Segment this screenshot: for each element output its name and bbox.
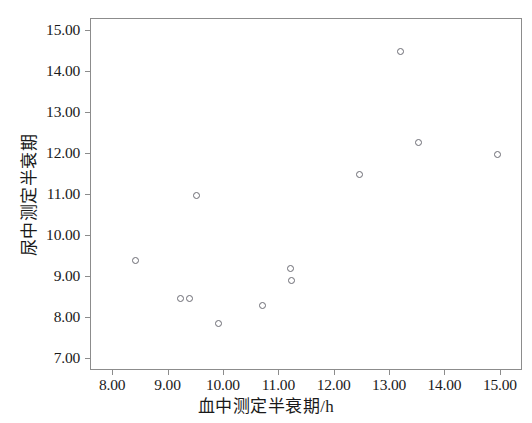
data-point [259, 302, 266, 309]
data-point [287, 265, 294, 272]
y-axis-title: 尿中测定半衰期 [20, 95, 40, 295]
data-point [288, 277, 295, 284]
y-axis-tick [85, 153, 90, 154]
scatter-plot-figure: 8.009.0010.0011.0012.0013.0014.0015.00 7… [0, 0, 532, 423]
y-axis-tick-label: 9.00 [0, 267, 80, 285]
y-axis-tick [85, 276, 90, 277]
x-axis-tick [389, 370, 390, 375]
x-axis-tick-label: 8.00 [82, 376, 142, 394]
y-axis-tick-label: 13.00 [0, 103, 80, 121]
x-axis-tick-label: 9.00 [138, 376, 198, 394]
data-point [494, 151, 501, 158]
x-axis-tick [223, 370, 224, 375]
data-point [177, 295, 184, 302]
y-axis-tick [85, 30, 90, 31]
data-point [397, 48, 404, 55]
x-axis-tick-label: 15.00 [470, 376, 530, 394]
data-point [415, 139, 422, 146]
x-axis-tick [112, 370, 113, 375]
y-axis-tick-label: 10.00 [0, 226, 80, 244]
x-axis-tick-label: 13.00 [359, 376, 419, 394]
x-axis-tick [444, 370, 445, 375]
x-axis-tick-label: 11.00 [248, 376, 308, 394]
y-axis-tick [85, 112, 90, 113]
y-axis-tick [85, 358, 90, 359]
y-axis-tick [85, 317, 90, 318]
y-axis-tick-label: 7.00 [0, 349, 80, 367]
x-axis-tick [168, 370, 169, 375]
y-axis-tick-label: 12.00 [0, 144, 80, 162]
data-point [186, 295, 193, 302]
x-axis-tick-label: 10.00 [193, 376, 253, 394]
data-points-layer [91, 19, 521, 369]
x-axis-tick-label: 12.00 [304, 376, 364, 394]
y-axis-tick-label: 8.00 [0, 308, 80, 326]
plot-area [90, 18, 522, 370]
y-axis-tick [85, 235, 90, 236]
y-axis-tick-label: 11.00 [0, 185, 80, 203]
y-axis-tick [85, 71, 90, 72]
data-point [132, 257, 139, 264]
x-axis-title: 血中测定半衰期/h [0, 396, 532, 418]
y-axis-tick [85, 194, 90, 195]
x-axis-tick-label: 14.00 [414, 376, 474, 394]
y-axis-tick-label: 15.00 [0, 21, 80, 39]
data-point [356, 171, 363, 178]
data-point [193, 192, 200, 199]
x-axis-tick [278, 370, 279, 375]
y-axis-tick-label: 14.00 [0, 62, 80, 80]
data-point [215, 320, 222, 327]
x-axis-tick [500, 370, 501, 375]
x-axis-tick [334, 370, 335, 375]
